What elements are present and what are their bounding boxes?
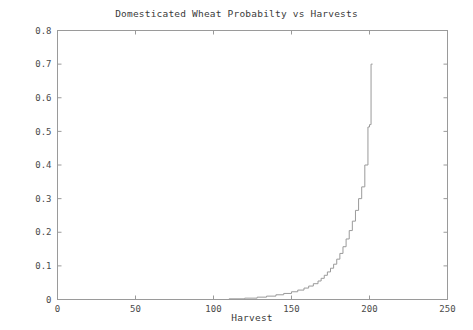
- x-tick-label: 0: [55, 304, 60, 314]
- y-tick-label: 0.1: [35, 261, 51, 271]
- x-axis-ticks: 050100150200250: [55, 31, 456, 314]
- x-tick-label: 150: [283, 304, 299, 314]
- y-tick-label: 0.8: [35, 26, 51, 36]
- x-tick-label: 50: [130, 304, 141, 314]
- data-series-group: [58, 64, 373, 299]
- y-tick-label: 0.4: [35, 160, 51, 170]
- y-tick-label: 0.7: [35, 59, 51, 69]
- axes-frame: [58, 31, 448, 300]
- x-tick-label: 250: [439, 304, 455, 314]
- x-tick-label: 200: [361, 304, 377, 314]
- y-tick-label: 0.6: [35, 93, 51, 103]
- y-tick-label: 0.2: [35, 227, 51, 237]
- y-tick-label: 0.5: [35, 127, 51, 137]
- plot-area: 050100150200250 00.10.20.30.40.50.60.70.…: [0, 0, 473, 330]
- data-series-line: [58, 64, 373, 299]
- y-tick-label: 0.3: [35, 194, 51, 204]
- y-tick-label: 0: [46, 295, 51, 305]
- y-axis-ticks: 00.10.20.30.40.50.60.70.8: [35, 26, 447, 305]
- chart-figure: Domesticated Wheat Probabilty vs Harvest…: [0, 0, 473, 330]
- x-tick-label: 100: [205, 304, 221, 314]
